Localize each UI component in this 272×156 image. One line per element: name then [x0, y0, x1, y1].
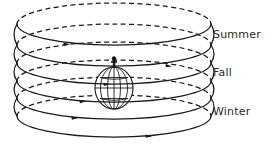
helix-connector-9: [211, 81, 214, 98]
season-label-winter: Winter: [213, 105, 251, 118]
helix-connector-1: [14, 24, 17, 45]
helix-connector-3: [14, 63, 17, 81]
earth-globe: [95, 67, 133, 109]
observer-arms: [111, 61, 116, 62]
season-label-summer: Summer: [213, 28, 261, 41]
helix-connector-5: [14, 98, 17, 116]
seasonal-sun-path-diagram: Summer Fall Winter: [0, 0, 272, 156]
helix-connector-2: [14, 45, 17, 63]
direction-arrow-6: [166, 64, 173, 67]
helix-connector-4: [14, 81, 17, 98]
diagram-canvas: Summer Fall Winter: [0, 0, 272, 156]
season-label-fall: Fall: [213, 66, 232, 79]
helix-back-arc-1: [17, 3, 211, 24]
helix-connector-7: [211, 45, 214, 63]
observer-head: [112, 57, 116, 61]
